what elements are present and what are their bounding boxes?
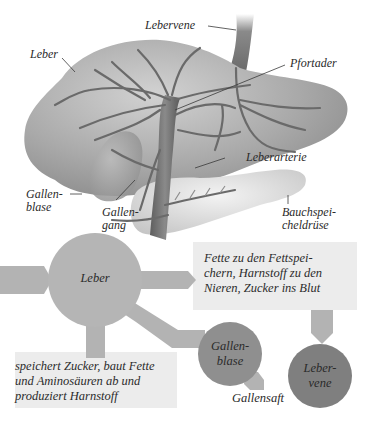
outputs-text: Fette zu den Fettspei- chern, Harnstoff … <box>204 251 322 296</box>
label-gallensaft: Gallensaft <box>232 392 284 405</box>
arrow-leber-to-outputs <box>138 271 196 289</box>
functions-line3: produziert Harnstoff <box>15 389 155 404</box>
node-gallenblase-label: Gallen- blase <box>200 339 260 369</box>
node-gallenblase-line1: Gallen- <box>200 339 260 354</box>
connector-leber-to-gallenblase <box>124 300 205 348</box>
arrow-into-leber <box>0 266 52 294</box>
functions-line1: speichert Zucker, baut Fette <box>15 359 155 374</box>
outputs-line1: Fette zu den Fettspei- <box>204 251 322 266</box>
node-lebervene-line1: Leber- <box>290 361 350 376</box>
functions-line2: und Aminosäuren ab und <box>15 374 155 389</box>
node-gallenblase-line2: blase <box>200 354 260 369</box>
node-lebervene-line2: vene <box>290 376 350 391</box>
outputs-line2: chern, Harnstoff zu den <box>204 266 322 281</box>
node-leber-label: Leber <box>65 271 125 286</box>
arrow-outputs-to-lebervene <box>311 310 333 344</box>
node-lebervene-label: Leber- vene <box>290 361 350 391</box>
functions-text: speichert Zucker, baut Fette und Aminosä… <box>15 359 155 404</box>
outputs-line3: Nieren, Zucker ins Blut <box>204 281 322 296</box>
